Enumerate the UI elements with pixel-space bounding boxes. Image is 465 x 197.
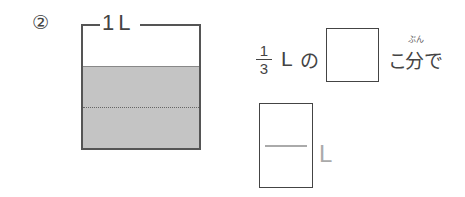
answer-box-count[interactable]: [326, 28, 379, 82]
container-right-wall: [199, 25, 201, 150]
fraction-one-third: 1 3: [256, 44, 272, 76]
answer-unit-liter: L: [319, 140, 332, 168]
unit-liter: L: [281, 47, 293, 71]
container-top-left-edge: [81, 24, 100, 26]
furigana-bun: ぶん: [408, 33, 424, 44]
particle-no: の: [300, 46, 319, 73]
answer-fraction-bar: [265, 145, 307, 147]
division-dotted-line: [83, 107, 199, 108]
container-capacity-label: 1L: [102, 10, 134, 36]
fraction-numerator: 1: [256, 44, 272, 58]
container-bottom: [81, 148, 201, 150]
text-bun-de: 分で: [405, 46, 443, 73]
container-top-right-edge: [140, 24, 201, 26]
problem-number: ②: [32, 11, 49, 33]
fraction-denominator: 3: [256, 62, 272, 76]
